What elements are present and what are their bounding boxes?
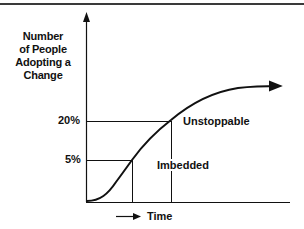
x-axis-label-time: Time (147, 210, 172, 222)
time-arrow-head-icon (133, 213, 141, 220)
y-axis-arrow-icon (83, 12, 90, 22)
tick-20pct: 20% (58, 114, 80, 126)
tick-5pct: 5% (65, 153, 81, 165)
label-imbedded: Imbedded (156, 159, 210, 171)
label-unstoppable: Unstoppable (183, 115, 250, 127)
adoption-s-curve (87, 86, 280, 201)
adoption-curve-chart (0, 0, 304, 229)
